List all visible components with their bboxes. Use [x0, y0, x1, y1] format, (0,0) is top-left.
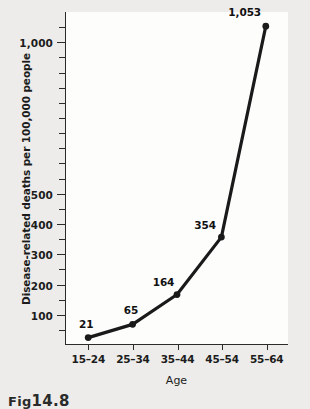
x-tick-label: 15–24	[72, 353, 105, 365]
series-polyline	[88, 26, 266, 337]
data-point-marker	[174, 291, 181, 298]
x-tick-label: 45–54	[205, 353, 238, 365]
figure-caption-prefix: Fig	[8, 394, 32, 409]
y-tick-label: 500	[31, 189, 53, 201]
x-tick	[267, 344, 268, 350]
y-tick-minor	[59, 133, 66, 134]
y-tick-minor	[59, 300, 66, 301]
data-series-line	[66, 12, 288, 344]
y-tick-minor	[59, 27, 66, 28]
y-tick-major: 500	[57, 194, 66, 195]
x-tick	[222, 344, 223, 350]
y-tick-minor	[59, 103, 66, 104]
data-point-marker	[129, 321, 136, 328]
y-tick-minor	[59, 330, 66, 331]
data-point-label: 354	[194, 219, 216, 231]
x-axis-title: Age	[65, 374, 288, 387]
data-point-label: 21	[79, 318, 93, 330]
data-point-marker	[262, 23, 269, 30]
data-point-label: 1,053	[228, 6, 261, 18]
data-point-marker	[85, 334, 92, 341]
y-tick-label: 1,000	[19, 37, 53, 49]
x-tick-label: 35–44	[161, 353, 194, 365]
data-point-label: 65	[124, 304, 138, 316]
y-tick-label: 300	[31, 249, 53, 261]
y-axis-title: Disease-related deaths per 100,000 peopl…	[16, 12, 36, 345]
y-tick-minor	[59, 163, 66, 164]
y-tick-minor	[59, 73, 66, 74]
y-tick-major: 200	[57, 285, 66, 286]
y-tick-major: 300	[57, 254, 66, 255]
y-tick-label: 200	[31, 280, 53, 292]
y-tick-minor	[59, 88, 66, 89]
y-tick-minor	[59, 239, 66, 240]
data-point-label: 164	[153, 276, 175, 288]
x-tick	[88, 344, 89, 350]
y-tick-major: 100	[57, 315, 66, 316]
x-tick-label: 25–34	[116, 353, 149, 365]
x-tick	[178, 344, 179, 350]
x-tick	[133, 344, 134, 350]
y-tick-minor	[59, 269, 66, 270]
plot-area: 1002003004005001,000 15–2425–3435–4445–5…	[65, 12, 288, 345]
y-tick-minor	[59, 179, 66, 180]
y-tick-label: 100	[31, 310, 53, 322]
series-markers	[85, 23, 269, 341]
y-axis-title-text: Disease-related deaths per 100,000 peopl…	[20, 53, 32, 305]
figure-caption: Fig14.8	[8, 392, 70, 409]
y-tick-label: 400	[31, 219, 53, 231]
x-tick-label: 55–64	[250, 353, 283, 365]
y-tick-major: 400	[57, 224, 66, 225]
y-tick-major: 1,000	[57, 42, 66, 43]
y-tick-minor	[59, 57, 66, 58]
y-tick-minor	[59, 209, 66, 210]
y-tick-minor	[59, 118, 66, 119]
figure-root: Disease-related deaths per 100,000 peopl…	[0, 0, 310, 409]
y-tick-minor	[59, 148, 66, 149]
figure-caption-number: 14.8	[32, 392, 70, 409]
data-point-marker	[218, 234, 225, 241]
